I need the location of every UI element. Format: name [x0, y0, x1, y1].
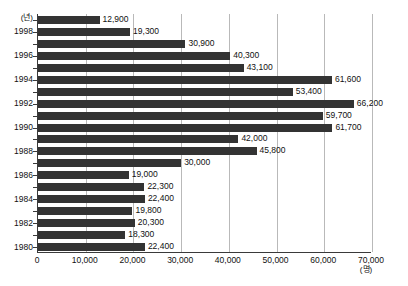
y-tick-label-1994: 1994 [14, 75, 33, 84]
bar [38, 195, 145, 203]
bar [38, 135, 238, 143]
bar [38, 100, 354, 108]
bar [38, 40, 185, 48]
bar-value-label: 61,600 [332, 75, 361, 84]
y-tick-label-1986: 1986 [14, 171, 33, 180]
bar [38, 147, 257, 155]
bar-value-label: 66,200 [354, 99, 383, 108]
bar-row: 30,900 [38, 40, 372, 48]
bar-row: 20,300 [38, 219, 372, 227]
bar-value-label: 59,700 [323, 111, 352, 120]
y-tick-label-1988: 1988 [14, 147, 33, 156]
bar [38, 76, 332, 84]
bar-value-label: 20,300 [135, 218, 164, 227]
bar [38, 183, 144, 191]
bar-value-label: 12,900 [100, 15, 129, 24]
bar-value-label: 19,800 [132, 206, 161, 215]
bar-value-label: 53,400 [293, 87, 322, 96]
x-tick-label: 50,000 [263, 256, 289, 265]
bar-row: 12,900 [38, 16, 372, 24]
bar-chart: (년) 199819961994199219901988198619841982… [0, 0, 408, 286]
bar-row: 61,600 [38, 76, 372, 84]
bar-value-label: 30,900 [185, 39, 214, 48]
bar [38, 112, 323, 120]
bar-value-label: 42,000 [238, 134, 267, 143]
bar-row: 40,300 [38, 52, 372, 60]
bar-value-label: 18,300 [125, 230, 154, 239]
bar-value-label: 40,300 [230, 51, 259, 60]
bar-value-label: 22,300 [144, 182, 173, 191]
bar-row: 43,100 [38, 64, 372, 72]
y-axis: (년) 199819961994199219901988198619841982… [0, 14, 37, 253]
bar-row: 18,300 [38, 231, 372, 239]
bar-value-label: 61,700 [332, 123, 361, 132]
bar [38, 231, 125, 239]
bar-row: 19,000 [38, 171, 372, 179]
x-axis-unit-label: (명) [360, 265, 372, 274]
y-tick-label-1990: 1990 [14, 123, 33, 132]
bar-row: 59,700 [38, 112, 372, 120]
bar-row: 53,400 [38, 88, 372, 96]
bar [38, 28, 130, 36]
bar-row: 45,800 [38, 147, 372, 155]
bar-row: 66,200 [38, 100, 372, 108]
bar-value-label: 30,000 [181, 158, 210, 167]
bar [38, 124, 332, 132]
bar-value-label: 19,000 [129, 170, 158, 179]
bar-row: 30,000 [38, 159, 372, 167]
x-tick-label: 0 [35, 256, 40, 265]
x-axis: 010,00020,00030,00040,00050,00060,00070,… [37, 253, 371, 267]
bar-value-label: 22,400 [145, 194, 174, 203]
gridline-40000 [229, 14, 230, 252]
bar-row: 22,400 [38, 243, 372, 251]
bar [38, 64, 244, 72]
bar [38, 243, 145, 251]
bar [38, 171, 129, 179]
bar-value-label: 22,400 [145, 242, 174, 251]
y-tick-label-1980: 1980 [14, 243, 33, 252]
bar-row: 19,300 [38, 28, 372, 36]
x-tick-label: 30,000 [167, 256, 193, 265]
y-tick-label-1996: 1996 [14, 51, 33, 60]
x-tick-label: 20,000 [119, 256, 145, 265]
bar-value-label: 43,100 [244, 63, 273, 72]
y-tick-label-1998: 1998 [14, 27, 33, 36]
y-tick-label-1992: 1992 [14, 99, 33, 108]
x-tick-label: 40,000 [215, 256, 241, 265]
bar [38, 52, 230, 60]
x-tick-label: 60,000 [310, 256, 336, 265]
x-tick-label: 70,000 [358, 256, 384, 265]
gridline-30000 [181, 14, 182, 252]
bar-row: 19,800 [38, 207, 372, 215]
bar-value-label: 19,300 [130, 27, 159, 36]
gridline-60000 [324, 14, 325, 252]
y-tick-label-1984: 1984 [14, 195, 33, 204]
bar-row: 61,700 [38, 124, 372, 132]
bar [38, 219, 135, 227]
gridline-10000 [86, 14, 87, 252]
bar-row: 22,400 [38, 195, 372, 203]
bar-value-label: 45,800 [257, 146, 286, 155]
bar-row: 42,000 [38, 135, 372, 143]
x-tick-label: 10,000 [72, 256, 98, 265]
gridline-70000 [372, 14, 373, 252]
bar [38, 88, 293, 96]
y-axis-unit-label: (년) [21, 14, 33, 22]
bar-row: 22,300 [38, 183, 372, 191]
bar [38, 207, 132, 215]
bar [38, 16, 100, 24]
bar [38, 159, 181, 167]
gridline-50000 [277, 14, 278, 252]
y-tick-label-1982: 1982 [14, 219, 33, 228]
plot-area: 12,90019,30030,90040,30043,10061,60053,4… [37, 14, 371, 253]
gridline-20000 [133, 14, 134, 252]
